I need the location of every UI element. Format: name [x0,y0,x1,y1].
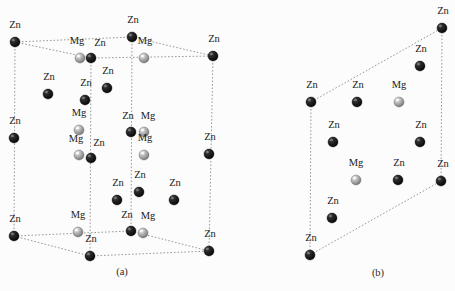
sphere-highlight [353,177,356,179]
sphere-highlight [307,252,310,254]
unit-cell-edge [91,56,213,58]
sphere-highlight [76,152,79,154]
zinc-sphere [327,213,337,223]
sphere-highlight [395,177,398,179]
atom-labels-layer: ZnZnZnMgZnMgZnZnZnZnMgZnMgMgZnMgZnZnZnZn… [9,5,449,244]
zinc-atom-label: Zn [393,157,405,168]
zinc-atom [86,153,96,163]
zinc-sphere [43,89,53,99]
zinc-atom [169,195,179,205]
zinc-atom-label: Zn [305,232,317,243]
sphere-highlight [141,129,144,131]
magnesium-atom [394,97,404,107]
sphere-highlight [210,53,213,55]
zinc-sphere [208,51,218,61]
sphere-highlight [140,230,143,232]
zinc-atom [112,195,122,205]
sphere-highlight [171,197,174,199]
sphere-highlight [354,99,357,101]
zinc-atom [204,246,214,256]
zinc-atom-label: Zn [415,119,427,130]
magnesium-atom [74,150,84,160]
sphere-highlight [128,129,131,131]
sphere-highlight [76,127,79,129]
zinc-atom [437,23,447,33]
sphere-highlight [45,91,48,93]
sphere-highlight [417,63,420,65]
zinc-atom-label: Zn [121,209,133,220]
zinc-sphere [169,195,179,205]
zinc-sphere [85,251,95,261]
zinc-sphere [437,23,447,33]
magnesium-atom-label: Mg [392,79,407,90]
zinc-atom-label: Zn [204,228,216,239]
zinc-sphere [328,137,338,147]
magnesium-atom [73,227,83,237]
zinc-atom [102,83,112,93]
zinc-sphere [86,153,96,163]
magnesium-sphere [139,150,149,160]
magnesium-atom-label: Mg [138,35,153,46]
sphere-highlight [104,85,107,87]
sphere-highlight [329,215,332,217]
sphere-highlight [396,99,399,101]
zinc-atom-label: Zn [85,233,97,244]
zinc-atom [208,51,218,61]
zinc-sphere [112,195,122,205]
zinc-sphere [126,226,136,236]
zinc-sphere [306,97,316,107]
crystal-structure-figure: ZnZnZnMgZnMgZnZnZnZnMgZnMgMgZnMgZnZnZnZn… [0,0,455,291]
zinc-atom-label: Zn [127,14,139,25]
zinc-sphere [126,127,136,137]
zinc-sphere [204,149,214,159]
zinc-atom-label: Zn [208,33,220,44]
zinc-atom-label: Zn [9,213,21,224]
zinc-sphere [436,176,446,186]
sphere-highlight [114,197,117,199]
magnesium-sphere [73,227,83,237]
zinc-atom-label: Zn [306,79,318,90]
zinc-atom [85,251,95,261]
magnesium-atom-label: Mg [349,157,364,168]
magnesium-atom-label: Mg [69,133,84,144]
magnesium-atom-label: Mg [138,132,153,143]
zinc-sphere [305,250,315,260]
sphere-highlight [438,178,441,180]
sphere-highlight [129,34,132,36]
zinc-sphere [204,246,214,256]
zinc-sphere [80,95,90,105]
magnesium-atom-label: Mg [72,107,87,118]
zinc-sphere [415,61,425,71]
zinc-atom [436,176,446,186]
zinc-atom-label: Zn [134,169,146,180]
panel-captions-layer: (a)(b) [116,266,384,279]
magnesium-sphere [138,228,148,238]
caption-a: (a) [116,266,128,278]
zinc-sphere [102,83,112,93]
zinc-sphere [393,175,403,185]
magnesium-atom [75,53,85,63]
zinc-atom-label: Zn [328,119,340,130]
zinc-atom-label: Zn [112,177,124,188]
zinc-atom-label: Zn [9,115,21,126]
unit-cell-edge [90,251,209,256]
zinc-atom-label: Zn [102,65,114,76]
zinc-atom [134,187,144,197]
magnesium-atom-label: Mg [71,209,86,220]
sphere-highlight [128,228,131,230]
sphere-highlight [417,139,420,141]
zinc-atom [305,250,315,260]
zinc-atom-label: Zn [93,137,105,148]
zinc-sphere [9,231,19,241]
sphere-highlight [11,135,14,137]
sphere-highlight [141,152,144,154]
zinc-atom [415,61,425,71]
sphere-highlight [77,55,80,57]
crystal-structure-svg: ZnZnZnMgZnMgZnZnZnZnMgZnMgMgZnMgZnZnZnZn… [0,0,455,291]
zinc-atom [126,127,136,137]
zinc-atom [9,231,19,241]
zinc-atom [204,149,214,159]
zinc-atom [415,137,425,147]
magnesium-sphere [74,150,84,160]
sphere-highlight [206,151,209,153]
